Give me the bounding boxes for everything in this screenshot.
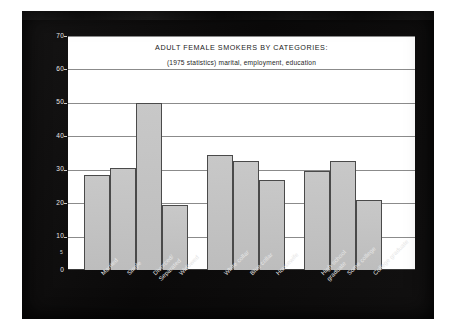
y-tick-label-0: 0: [44, 267, 64, 274]
bar-single: [110, 168, 136, 270]
y-tick-label-20: 20: [44, 200, 64, 207]
y-tick-mark-60: [64, 69, 67, 70]
y-tick-label-10: 10: [44, 233, 64, 240]
bar-divorced-separated: [136, 103, 162, 270]
chart-title: ADULT FEMALE SMOKERS BY CATEGORIES:: [68, 43, 415, 52]
gridline-70: [68, 36, 415, 37]
y-tick-mark-40: [64, 136, 67, 137]
plot-area: ADULT FEMALE SMOKERS BY CATEGORIES: (197…: [68, 36, 415, 270]
chart-board: 010203040506070 5 Percentage of smokers …: [22, 11, 434, 319]
y-tick-mark-10: [64, 237, 67, 238]
y-tick-label-60: 60: [44, 66, 64, 73]
gridline-40: [68, 136, 415, 137]
scan-noise-band: [22, 11, 434, 20]
y-tick-mark-30: [64, 170, 67, 171]
y-axis-minor-tick-label: 5: [60, 250, 63, 255]
bar-high-school-graduate: [304, 171, 330, 270]
y-tick-label-70: 70: [44, 33, 64, 40]
y-tick-mark-20: [64, 203, 67, 204]
y-tick-label-30: 30: [44, 166, 64, 173]
y-tick-mark-70: [64, 36, 67, 37]
x-axis-tick-labels: MarriedSingleDivorced/SeparatedWidowedWh…: [68, 272, 415, 319]
y-tick-mark-50: [64, 103, 67, 104]
gridline-50: [68, 103, 415, 104]
y-tick-label-40: 40: [44, 133, 64, 140]
chart-subtitle: (1975 statistics) marital, employment, e…: [68, 59, 415, 66]
y-axis-tick-labels: 010203040506070: [42, 36, 64, 270]
y-tick-label-50: 50: [44, 99, 64, 106]
figure-root: 010203040506070 5 Percentage of smokers …: [0, 0, 454, 334]
bar-married: [84, 175, 110, 270]
bar-white-collar: [207, 155, 233, 270]
gridline-60: [68, 69, 415, 70]
